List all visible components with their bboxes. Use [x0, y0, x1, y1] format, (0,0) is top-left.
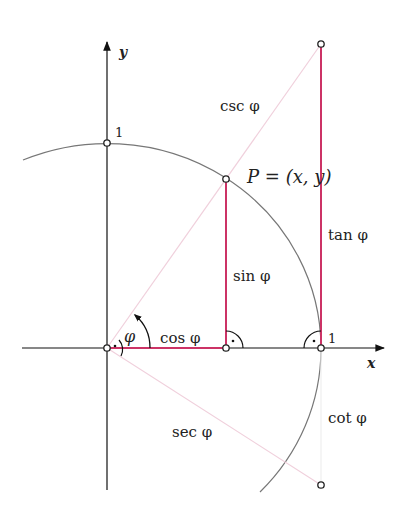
point-p-label: P = (x, y) [246, 166, 331, 187]
x-tick-label: 1 [328, 331, 336, 346]
point-p [223, 176, 229, 182]
x-one-point [318, 345, 324, 351]
tan-top-point [318, 41, 324, 47]
angle-phi-label: φ [124, 327, 136, 346]
angle-phi-arc [135, 315, 150, 348]
origin-point [104, 345, 110, 351]
x-axis-label: x [366, 355, 376, 371]
cot-label: cot φ [328, 409, 367, 427]
csc-label: csc φ [220, 97, 260, 115]
cos-label: cos φ [160, 329, 200, 347]
right-angle-dot-sin [232, 340, 235, 343]
sec-line [107, 348, 321, 485]
y-tick-label: 1 [115, 125, 123, 140]
right-angle-dot-tan [313, 340, 316, 343]
sec-label: sec φ [172, 423, 212, 441]
y-one-point [104, 140, 110, 146]
right-angle-dot-origin [114, 345, 117, 348]
sin-label: sin φ [233, 267, 270, 285]
y-axis-label: y [118, 44, 128, 60]
tan-label: tan φ [328, 226, 368, 244]
csc-line [107, 44, 321, 348]
unit-circle-diagram: y x 1 1 P = (x, y) φ cos φ sin φ tan φ c… [0, 0, 407, 524]
cot-bottom-point [318, 482, 324, 488]
sin-foot-point [223, 345, 229, 351]
